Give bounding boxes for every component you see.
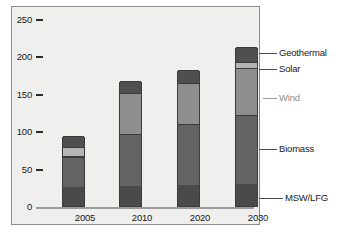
bar-segment-biomass (236, 115, 257, 184)
bar-segment-msw-lfg (236, 184, 257, 206)
y-tick-mark (36, 94, 43, 96)
y-tick-label: 50 (2, 165, 32, 175)
x-tick-label-2030: 2030 (228, 212, 288, 223)
y-tick-mark (36, 169, 43, 171)
chart-figure: 250200150100500 2005201020202030 Geother… (0, 0, 355, 242)
y-tick-label: 200 (2, 52, 32, 62)
x-tick-label-2005: 2005 (55, 212, 115, 223)
bar-segment-geothermal (120, 81, 141, 93)
bar-segment-biomass (63, 157, 84, 187)
bar-segment-wind (178, 83, 199, 124)
y-tick-label: 150 (2, 90, 32, 100)
x-axis-line (36, 207, 254, 209)
y-tick-mark (36, 56, 43, 58)
legend-leader-line (259, 198, 283, 199)
legend-leader-line (259, 53, 277, 54)
bar-segment-msw-lfg (63, 187, 84, 206)
bar-segment-wind (236, 68, 257, 114)
bar-2020 (177, 71, 200, 207)
legend-leader-line (259, 69, 277, 70)
legend-label-solar: Solar (279, 64, 300, 74)
bar-segment-wind (120, 93, 141, 134)
bar-segment-geothermal (63, 136, 84, 146)
y-tick-label: 250 (2, 15, 32, 25)
bar-2030 (235, 48, 258, 207)
y-tick-mark (36, 131, 43, 133)
bar-segment-msw-lfg (120, 186, 141, 206)
bar-segment-geothermal (178, 70, 199, 83)
x-tick-label-2010: 2010 (112, 212, 172, 223)
y-tick-label: 100 (2, 127, 32, 137)
bar-2005 (62, 137, 85, 207)
bar-segment-msw-lfg (178, 185, 199, 206)
y-tick-mark (36, 19, 43, 21)
bar-segment-geothermal (236, 47, 257, 62)
legend-leader-line (259, 149, 277, 150)
bar-2010 (119, 82, 142, 207)
y-tick-label: 0 (2, 202, 32, 212)
legend-label-biomass: Biomass (279, 144, 314, 154)
legend-label-msw-lfg: MSW/LFG (285, 193, 328, 203)
legend-label-wind: Wind (279, 93, 300, 103)
bar-segment-biomass (120, 134, 141, 186)
bar-segment-biomass (178, 124, 199, 185)
x-tick-label-2020: 2020 (170, 212, 230, 223)
legend-leader-line (263, 98, 277, 99)
legend-label-geothermal: Geothermal (279, 48, 327, 58)
bar-segment-solar (63, 147, 84, 156)
